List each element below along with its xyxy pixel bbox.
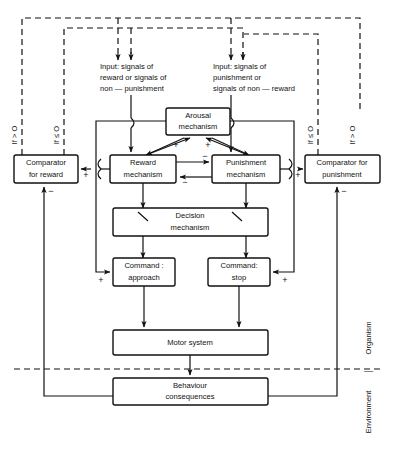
behaviour-to-comparator-reward: − bbox=[44, 186, 113, 396]
sign-arousal-plus-left: + bbox=[173, 140, 178, 150]
sign-arousal-plus-right: + bbox=[205, 140, 210, 150]
comparator-punishment-line2: punishment bbox=[322, 170, 362, 179]
arousal-label-line2: mechanism bbox=[179, 122, 218, 131]
flow-diagram-svg: If > O If ≤ O If ≤ O If > O Input: signa… bbox=[0, 0, 393, 450]
diagram-canvas: If > O If ≤ O If ≤ O If > O Input: signa… bbox=[0, 0, 393, 450]
sign-approach-plus: + bbox=[98, 275, 103, 285]
reward-inhibits-punishment: − bbox=[176, 151, 209, 162]
command-approach-line1: Command : bbox=[124, 261, 163, 270]
input-left-line3: non — punishment bbox=[100, 84, 165, 93]
dashed-feedback-far-right bbox=[131, 18, 360, 60]
input-left-trunk bbox=[131, 95, 134, 152]
condition-label-inner-left: If ≤ O bbox=[52, 126, 61, 145]
motor-system-label: Motor system bbox=[167, 338, 213, 347]
input-right-line2: punishment or bbox=[213, 73, 262, 82]
input-right-line3: signals of non — reward bbox=[213, 84, 295, 93]
input-label-left: Input: signals of reward or signals of n… bbox=[100, 62, 167, 93]
boundary-label-organism: Organism bbox=[364, 322, 373, 355]
punishment-mech-line2: mechanism bbox=[227, 170, 266, 179]
behaviour-line1: Behaviour bbox=[173, 381, 208, 390]
behaviour-line2: consequences bbox=[166, 392, 215, 401]
reward-mech-line2: mechanism bbox=[124, 170, 163, 179]
sign-punish-to-reward-minus: − bbox=[182, 177, 187, 187]
condition-label-far-right: If > O bbox=[348, 126, 357, 145]
sign-reward-comparator-plus: + bbox=[83, 170, 88, 180]
punishment-mech-line1: Punishment bbox=[226, 158, 267, 167]
sign-reward-to-punish-minus: − bbox=[202, 151, 207, 161]
sign-comparator-reward-minus: − bbox=[48, 186, 53, 196]
input-right-line1: Input: signals of bbox=[213, 62, 267, 71]
input-label-right: Input: signals of punishment or signals … bbox=[213, 62, 295, 93]
arousal-label-line1: Arousal bbox=[185, 111, 211, 120]
input-right-trunk bbox=[231, 95, 234, 152]
decision-line2: mechanism bbox=[171, 223, 210, 232]
sign-punishment-comparator-plus: + bbox=[295, 170, 300, 180]
input-left-line1: Input: signals of bbox=[100, 62, 154, 71]
comparator-reward-line1: Comparator bbox=[26, 158, 67, 167]
behaviour-to-comparator-punishment: − bbox=[268, 186, 347, 396]
comparator-punishment-line1: Comparator for bbox=[316, 158, 368, 167]
input-left-line2: reward or signals of bbox=[100, 73, 167, 82]
sign-comparator-punishment-minus: − bbox=[341, 186, 346, 196]
command-approach-line2: approach bbox=[128, 273, 160, 282]
comparator-reward-line2: for reward bbox=[29, 170, 63, 179]
decision-line1: Decision bbox=[175, 211, 204, 220]
reward-mech-line1: Reward bbox=[130, 158, 156, 167]
command-stop-line2: stop bbox=[232, 273, 246, 282]
condition-label-far-left: If > O bbox=[10, 126, 19, 145]
punishment-inhibits-reward: − bbox=[180, 177, 212, 187]
boundary-label-environment: Environment bbox=[364, 390, 373, 434]
sign-stop-plus: + bbox=[282, 275, 287, 285]
punishment-to-comparator-punishment: + bbox=[280, 159, 303, 180]
punishment-to-arousal-arrow bbox=[206, 138, 248, 155]
command-stop-line1: Command: bbox=[220, 261, 257, 270]
boundary-separator: │ bbox=[364, 369, 374, 374]
condition-label-inner-right: If ≤ O bbox=[306, 126, 315, 145]
